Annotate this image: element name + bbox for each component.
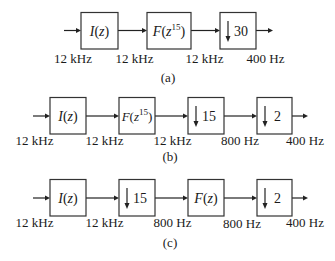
caption-a: (a) <box>161 70 175 85</box>
rate-label: 12 kHz <box>16 215 54 230</box>
arrowhead-icon <box>252 114 257 119</box>
block-downsampler-b-2: 2 <box>257 98 292 135</box>
diagram-b: I(z) F(z15) 15 2 12 kHz 12 kHz 12 kHz 80… <box>16 98 325 165</box>
svg-text:2: 2 <box>274 109 281 124</box>
block-downsampler-c-1: 15 <box>119 180 155 217</box>
svg-text:15: 15 <box>202 109 216 124</box>
arrowhead-icon <box>303 114 308 119</box>
rate-label: 12 kHz <box>116 51 154 66</box>
block-interpolator-filter-a: I(z) <box>81 13 118 50</box>
rate-label: 400 Hz <box>286 215 324 230</box>
rate-label: 12 kHz <box>86 133 124 148</box>
svg-text:F(z15): F(z15) <box>152 22 186 40</box>
arrowhead-icon <box>183 114 188 119</box>
multirate-block-diagrams: I(z) F(z15) 30 12 kHz 12 kHz 12 kHz 400 … <box>0 0 335 261</box>
block-downsampler-a: 30 <box>220 13 256 50</box>
rate-label: 800 Hz <box>221 133 259 148</box>
rate-label: 12 kHz <box>186 51 224 66</box>
arrowhead-icon <box>76 28 81 33</box>
arrowhead-icon <box>268 28 273 33</box>
rate-label: 400 Hz <box>286 133 324 148</box>
caption-c: (c) <box>163 235 177 250</box>
svg-text:I(z): I(z) <box>57 109 78 125</box>
svg-text:15: 15 <box>133 191 147 206</box>
rate-label: 12 kHz <box>54 51 92 66</box>
block-prototype-filter-a: F(z15) <box>147 13 191 50</box>
arrowhead-icon <box>114 196 119 201</box>
block-interpolator-filter-c: I(z) <box>50 180 86 217</box>
arrowhead-icon <box>252 196 257 201</box>
rate-label: 12 kHz <box>86 215 124 230</box>
block-prototype-filter-c: F(z) <box>188 180 224 217</box>
arrowhead-icon <box>215 28 220 33</box>
arrowhead-icon <box>303 196 308 201</box>
block-downsampler-b-1: 15 <box>188 98 224 135</box>
block-interpolator-filter-b: I(z) <box>50 98 86 135</box>
rate-label: 12 kHz <box>16 133 54 148</box>
svg-text:30: 30 <box>234 24 248 39</box>
rate-label: 800 Hz <box>223 216 261 231</box>
svg-text:F(z): F(z) <box>193 191 218 207</box>
rate-label: 800 Hz <box>154 215 192 230</box>
block-downsampler-c-2: 2 <box>257 180 292 217</box>
arrowhead-icon <box>114 114 119 119</box>
arrowhead-icon <box>142 28 147 33</box>
svg-text:I(z): I(z) <box>89 24 110 40</box>
arrowhead-icon <box>183 196 188 201</box>
caption-b: (b) <box>162 149 177 164</box>
svg-text:I(z): I(z) <box>57 191 78 207</box>
block-prototype-filter-b: F(z15) <box>119 98 155 135</box>
rate-label: 12 kHz <box>154 133 192 148</box>
diagram-a: I(z) F(z15) 30 12 kHz 12 kHz 12 kHz 400 … <box>54 13 285 86</box>
diagram-c: I(z) 15 F(z) 2 12 kHz 12 kHz 800 Hz 800 … <box>16 180 325 251</box>
arrowhead-icon <box>45 114 50 119</box>
svg-text:F(z15): F(z15) <box>121 107 153 124</box>
arrowhead-icon <box>45 196 50 201</box>
svg-text:2: 2 <box>274 191 281 206</box>
rate-label: 400 Hz <box>247 51 285 66</box>
